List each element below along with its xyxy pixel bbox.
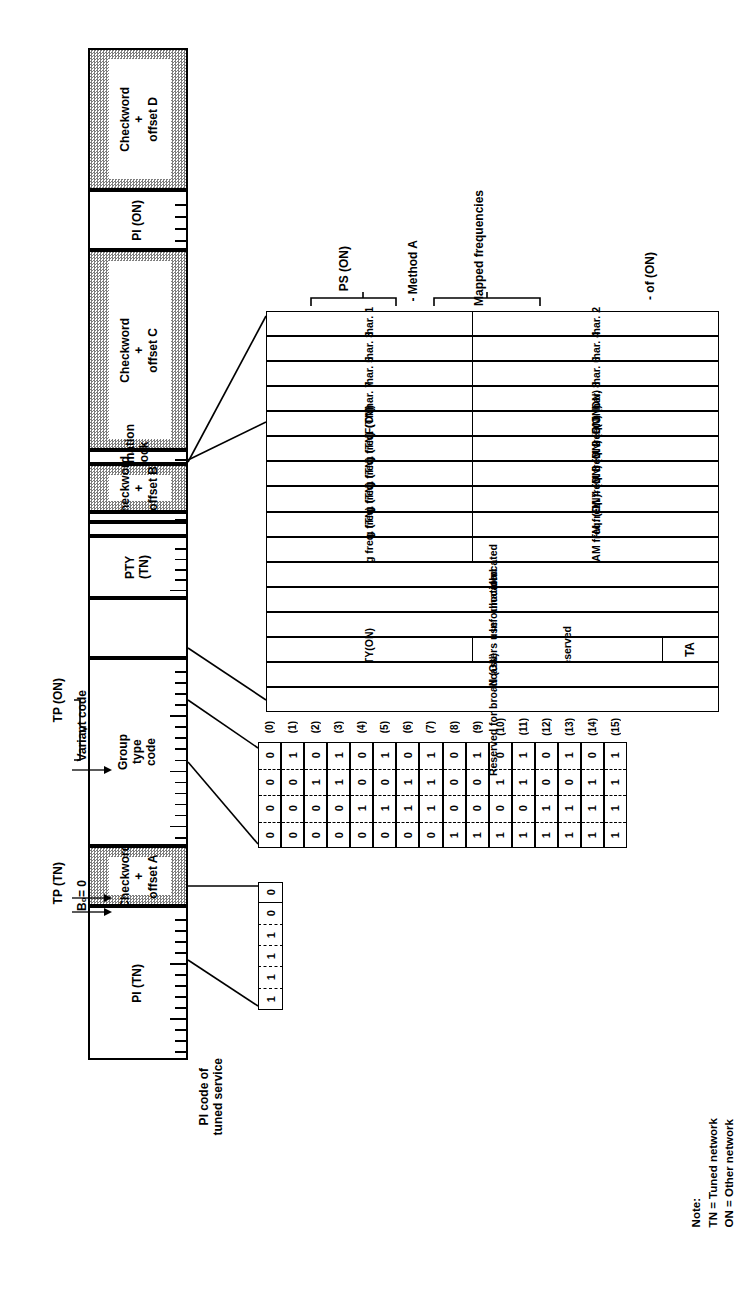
frame-segment-pi-on: PI (ON) <box>88 190 188 250</box>
bit-value: 0 <box>448 805 460 811</box>
note-line-1: ON = Other network <box>721 1118 738 1227</box>
variant-cell-right: Mapped AM freq. (ON) <box>472 538 720 561</box>
variant-index-text: (1) <box>287 721 298 733</box>
mapped-brace <box>434 292 540 306</box>
bit-cell: 1 <box>605 822 626 849</box>
bit-value: 0 <box>494 805 506 811</box>
bit-column-5: 1010 <box>373 742 396 848</box>
mapped-frequencies-label: Mapped frequencies <box>473 190 487 310</box>
bit-value: 1 <box>425 805 437 811</box>
bit-cell: 1 <box>305 769 326 796</box>
frame-segment-checkword-c: Checkword+offset C <box>88 250 188 450</box>
bit-ruler <box>164 660 186 844</box>
variant-row-2: char. 5char. 6 <box>266 361 719 386</box>
variant-index-0: (0) <box>258 714 281 740</box>
variant-index-text: (15) <box>610 718 621 736</box>
note-heading: Note: <box>688 1118 705 1227</box>
bit-column-7: 1110 <box>419 742 442 848</box>
note-line-0: TN = Tuned network <box>705 1118 722 1227</box>
bit-value: 1 <box>471 832 483 838</box>
bit-value: 0 <box>333 832 345 838</box>
bit-cell: 0 <box>559 769 580 796</box>
tp-tn-text: TP (TN) <box>52 862 66 904</box>
leader-variant-top <box>188 700 258 748</box>
bit-cell: 0 <box>490 742 511 769</box>
bit-cell: 0 <box>374 822 395 849</box>
variant-index-5: (5) <box>373 714 396 740</box>
group-type-bit-cell: 1 <box>258 946 283 967</box>
bit-cell: 0 <box>420 822 441 849</box>
bit-cell: 0 <box>328 795 349 822</box>
bit-value: 1 <box>563 832 575 838</box>
bit-cell: 1 <box>559 822 580 849</box>
bit-cell: 0 <box>467 769 488 796</box>
variant-index-text: (4) <box>356 721 367 733</box>
frame-segment-variant-code <box>88 512 188 522</box>
bit-column-1: 1000 <box>281 742 304 848</box>
bit-value: 1 <box>287 752 299 758</box>
frame-segment-label: Checkword+offset A <box>119 844 160 909</box>
frame-segment-group-type: Grouptypecode <box>88 658 188 846</box>
bit-value: 0 <box>517 805 529 811</box>
variant-cell-ta-text: TA <box>684 642 698 657</box>
leader-cwc <box>188 316 266 462</box>
bit-cell: 1 <box>536 795 557 822</box>
b0-label: B₀= 0 <box>76 880 90 915</box>
variant-index-text: (13) <box>564 718 575 736</box>
variant-index-text: (5) <box>379 721 390 733</box>
bit-value: 1 <box>448 832 460 838</box>
bit-value: 1 <box>494 832 506 838</box>
variant-row-15: Reserved for broadcasters use <box>266 687 719 712</box>
bit-value: 1 <box>425 752 437 758</box>
variant-index-text: (12) <box>541 718 552 736</box>
bit-value: 1 <box>586 779 598 785</box>
variant-index-text: (14) <box>587 718 598 736</box>
bit-ruler <box>164 538 186 596</box>
variant-index-text: (2) <box>310 721 321 733</box>
bit-ruler <box>164 192 186 248</box>
bit-value: 0 <box>287 805 299 811</box>
variant-index-text: (3) <box>333 721 344 733</box>
bit-cell: 0 <box>444 769 465 796</box>
frame-segment-pi-tn: PI (TN) <box>88 906 188 1060</box>
bit-cell: 0 <box>351 822 372 849</box>
bit-cell: 1 <box>420 769 441 796</box>
bit-cell: 1 <box>559 742 580 769</box>
bit-column-2: 0100 <box>304 742 327 848</box>
variant-index-1: (1) <box>281 714 304 740</box>
leader-variant-bottom <box>188 762 258 844</box>
variant-cell-ta: TA <box>662 638 720 661</box>
frame-segment-label: PI (TN) <box>131 964 145 1003</box>
note-text: Note: TN = Tuned network ON = Other netw… <box>688 1118 738 1227</box>
variant-index-12: (12) <box>535 714 558 740</box>
bit-cell: 0 <box>351 769 372 796</box>
bit-column-9: 1001 <box>466 742 489 848</box>
variant-table: char. 1char. 2char. 3char. 4char. 5char.… <box>266 311 719 712</box>
variant-code-label: Variant code <box>76 690 90 765</box>
bit-value: 0 <box>310 832 322 838</box>
bit-cell: 0 <box>305 795 326 822</box>
bit-value: 0 <box>287 779 299 785</box>
bit-value: 1 <box>356 805 368 811</box>
leader-info-top <box>188 422 266 460</box>
bit-column-0: 0000 <box>258 742 281 848</box>
variant-index-8: (8) <box>443 714 466 740</box>
bit-value: 1 <box>609 832 621 838</box>
bit-value: 0 <box>310 805 322 811</box>
bit-cell: 0 <box>282 795 303 822</box>
tp-bit-cell: 0 <box>258 882 283 903</box>
bit-cell: 0 <box>282 822 303 849</box>
variant-index-11: (11) <box>512 714 535 740</box>
frame-segment-label: Checkword+offset B <box>119 456 160 521</box>
bit-value: 1 <box>609 779 621 785</box>
bit-cell: 0 <box>490 795 511 822</box>
bit-value: 0 <box>471 805 483 811</box>
bit-value: 0 <box>540 752 552 758</box>
frame-segment-label: PI (ON) <box>131 200 145 241</box>
bit-cell: 0 <box>374 769 395 796</box>
bit-ruler <box>164 908 186 1058</box>
bit-value: 0 <box>333 805 345 811</box>
bit-cell: 1 <box>374 742 395 769</box>
bit-value: 0 <box>264 779 276 785</box>
variant-cell-left: Tuning freq. (TN) <box>267 538 472 561</box>
